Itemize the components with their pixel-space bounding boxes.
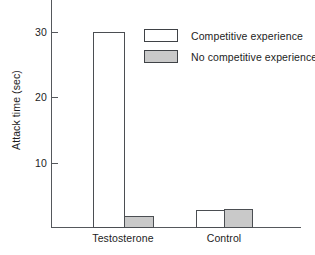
y-axis-line (51, 0, 52, 228)
legend-label-competitive-experience: Competitive experience (191, 30, 303, 42)
y-axis-tick-label-30-wrap: 30 (0, 26, 47, 38)
y-axis-title: Attack time (sec) (10, 50, 22, 170)
y-axis-tick-20 (52, 97, 58, 98)
legend-item-competitive-experience: Competitive experience (144, 25, 315, 46)
bar-testosterone-no-competitive (124, 216, 154, 228)
legend-item-no-competitive-experience: No competitive experience (144, 46, 315, 67)
bar-control-competitive (196, 210, 225, 228)
y-axis-tick-label-10-wrap: 10 (0, 157, 47, 169)
y-axis-tick-30 (52, 32, 58, 33)
x-axis-line (51, 227, 301, 228)
legend-swatch-white-icon (144, 29, 178, 42)
legend-label-no-competitive-experience: No competitive experience (191, 51, 315, 63)
bar-chart-figure: 30 20 10 Attack time (sec) Testosterone … (0, 0, 315, 255)
bar-testosterone-competitive (93, 32, 125, 228)
y-axis-tick-10 (52, 163, 58, 164)
y-axis-tick-label-20-wrap: 20 (0, 91, 47, 103)
y-axis-tick-label-30: 30 (3, 26, 47, 38)
bar-control-no-competitive (224, 209, 253, 228)
x-axis-label-control: Control (164, 232, 284, 244)
chart-legend: Competitive experience No competitive ex… (144, 25, 315, 67)
legend-swatch-gray-icon (144, 50, 178, 63)
